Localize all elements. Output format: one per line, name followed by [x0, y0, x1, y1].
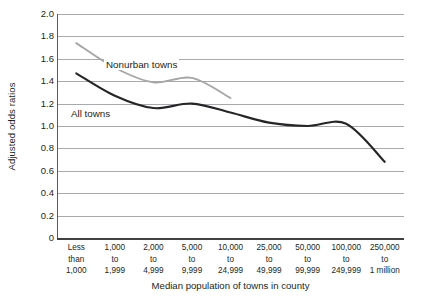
chart-figure: Adjusted odds ratios 2.01.81.61.41.21.00… — [0, 0, 424, 302]
y-axis-tick-label: 2.0 — [24, 9, 54, 19]
x-axis-tick-label-line: 1,000 — [57, 265, 96, 277]
y-axis-tick-label: 0 — [24, 233, 54, 243]
y-axis-tick-label: 0.6 — [24, 166, 54, 176]
series-label-all-towns: All towns — [69, 108, 112, 119]
x-axis-tick-label-line: 1 million — [366, 265, 405, 277]
y-axis-tick-label: 0.4 — [24, 188, 54, 198]
x-axis-tick-label: Lessthan1,000 — [57, 242, 96, 278]
y-axis-title: Adjusted odds ratios — [0, 0, 22, 252]
x-axis-tick-label-line: 249,999 — [327, 265, 366, 277]
x-axis-tick-label-line: to — [173, 254, 212, 266]
series-lines — [57, 14, 404, 238]
x-axis-tick-label-line: Less — [57, 242, 96, 254]
x-axis-tick-label: 5,000to9,999 — [173, 242, 212, 278]
y-axis-title-text: Adjusted odds ratios — [6, 82, 17, 170]
x-axis-tick-label-line: 24,999 — [211, 265, 250, 277]
x-axis-tick-label: 100,000to249,999 — [327, 242, 366, 278]
x-axis-tick-label-line: 99,999 — [288, 265, 327, 277]
x-axis-tick-label-line: to — [250, 254, 289, 266]
x-axis-tick-label-line: 1,000 — [96, 242, 135, 254]
series-line-nonurban-towns — [76, 43, 230, 98]
series-label-nonurban-towns: Nonurban towns — [104, 59, 179, 70]
x-axis-tick-labels: Lessthan1,0001,000to1,9992,000to4,9995,0… — [57, 242, 404, 278]
x-axis-line — [57, 238, 404, 240]
x-axis-tick-label-line: 100,000 — [327, 242, 366, 254]
x-axis-tick-label-line: 50,000 — [288, 242, 327, 254]
x-axis-tick-label-line: 4,999 — [134, 265, 173, 277]
x-axis-tick-label: 50,000to99,999 — [288, 242, 327, 278]
x-axis-tick-label-line: 9,999 — [173, 265, 212, 277]
y-axis-tick-label: 1.2 — [24, 99, 54, 109]
y-axis-line — [57, 14, 58, 239]
x-axis-tick-label-line: to — [366, 254, 405, 266]
y-axis-tick-label: 1.6 — [24, 54, 54, 64]
x-axis-tick-label-line: to — [134, 254, 173, 266]
y-axis-tick-label: 1.8 — [24, 31, 54, 41]
y-axis-tick-label: 1.4 — [24, 76, 54, 86]
x-axis-tick-label-line: 10,000 — [211, 242, 250, 254]
y-axis-tick-labels: 2.01.81.61.41.21.00.80.60.40.20 — [20, 0, 54, 252]
x-axis-tick-label: 1,000to1,999 — [96, 242, 135, 278]
x-axis-tick-label-line: to — [327, 254, 366, 266]
x-axis-tick-label: 10,000to24,999 — [211, 242, 250, 278]
x-axis-tick-label-line: 250,000 — [366, 242, 405, 254]
plot-area — [57, 14, 404, 238]
x-axis-title: Median population of towns in county — [57, 280, 404, 291]
x-axis-tick-label: 250,000to1 million — [366, 242, 405, 278]
x-axis-tick-label-line: 2,000 — [134, 242, 173, 254]
x-axis-tick-label-line: to — [211, 254, 250, 266]
x-axis-tick-label-line: 5,000 — [173, 242, 212, 254]
x-axis-tick-label: 2,000to4,999 — [134, 242, 173, 278]
y-axis-tick-label: 0.2 — [24, 211, 54, 221]
x-axis-tick-label-line: than — [57, 254, 96, 266]
y-axis-tick-label: 1.0 — [24, 121, 54, 131]
series-line-all-towns — [76, 73, 384, 161]
x-axis-tick-label-line: 49,999 — [250, 265, 289, 277]
x-axis-tick-label-line: to — [96, 254, 135, 266]
y-axis-tick-label: 0.8 — [24, 143, 54, 153]
x-axis-tick-label: 25,000to49,999 — [250, 242, 289, 278]
x-axis-tick-label-line: to — [288, 254, 327, 266]
x-axis-tick-label-line: 1,999 — [96, 265, 135, 277]
x-axis-tick-label-line: 25,000 — [250, 242, 289, 254]
